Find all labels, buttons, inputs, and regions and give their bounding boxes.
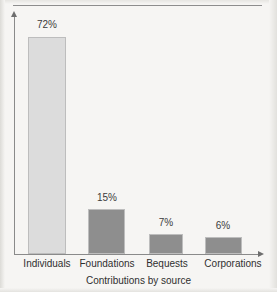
bar-individuals (28, 37, 66, 254)
bar-value-label-corporations: 6% (196, 220, 250, 231)
x-tick-label-corporations: Corporations (188, 258, 277, 269)
bar-bequests (149, 234, 183, 254)
x-axis-title: Contributions by source (0, 275, 277, 286)
plot-area: 72% 15% 7% 6% Individuals Foundations Be… (0, 0, 277, 292)
bar-foundations (88, 209, 125, 254)
bar-value-label-foundations: 15% (80, 192, 134, 203)
bar-corporations (205, 237, 242, 254)
chart-figure: 72% 15% 7% 6% Individuals Foundations Be… (0, 0, 277, 292)
bar-value-label-bequests: 7% (139, 217, 193, 228)
y-axis-arrow-icon (11, 11, 17, 17)
x-axis-line (14, 254, 259, 255)
y-axis-line (14, 16, 15, 254)
x-axis-arrow-icon (258, 251, 264, 257)
bar-value-label-individuals: 72% (20, 19, 74, 30)
